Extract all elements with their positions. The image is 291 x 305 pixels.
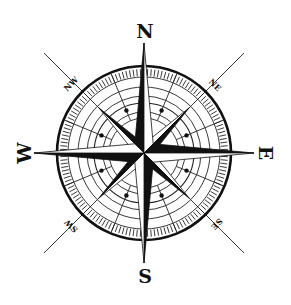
label-southeast: SE (209, 216, 224, 231)
label-west: W (13, 142, 35, 165)
label-south: S (138, 265, 152, 287)
label-northwest: NW (62, 74, 81, 93)
compass-rose: N S E W NE NW SE SW (0, 0, 291, 305)
label-east: E (255, 146, 277, 160)
label-northeast: NE (207, 77, 224, 94)
label-north: N (136, 20, 153, 42)
label-southwest: SW (61, 217, 79, 235)
